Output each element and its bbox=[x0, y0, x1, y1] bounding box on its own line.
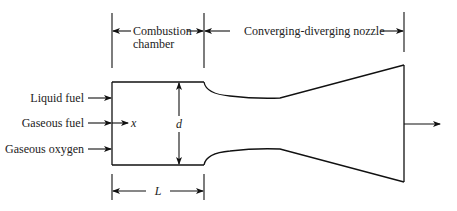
input-gaseous-oxygen: Gaseous oxygen bbox=[5, 142, 111, 156]
nozzle-contour bbox=[204, 65, 404, 182]
nozzle-label: Converging-diverging nozzle bbox=[244, 24, 385, 38]
x-symbol: x bbox=[130, 116, 137, 130]
x-axis: x bbox=[112, 116, 137, 130]
gaseous-oxygen-label: Gaseous oxygen bbox=[5, 142, 84, 156]
nozzle-dimension: Converging-diverging nozzle bbox=[205, 24, 403, 38]
length-dimension: L bbox=[112, 174, 204, 200]
rocket-engine-diagram: Combustion chamber Converging-diverging … bbox=[0, 0, 457, 211]
combustion-chamber-dimension: Combustion chamber bbox=[113, 24, 203, 51]
combustion-label-line2: chamber bbox=[133, 37, 174, 51]
liquid-fuel-label: Liquid fuel bbox=[30, 91, 84, 105]
diameter-dimension: d bbox=[176, 83, 183, 164]
L-symbol: L bbox=[154, 184, 162, 198]
combustion-label-line1: Combustion bbox=[133, 24, 192, 38]
d-symbol: d bbox=[176, 117, 183, 131]
input-gaseous-fuel: Gaseous fuel bbox=[22, 116, 111, 130]
gaseous-fuel-label: Gaseous fuel bbox=[22, 116, 85, 130]
input-liquid-fuel: Liquid fuel bbox=[30, 91, 111, 105]
